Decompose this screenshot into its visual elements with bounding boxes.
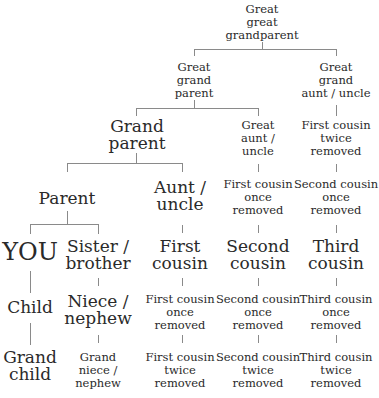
label-line: aunt / uncle — [301, 87, 370, 100]
connector — [194, 100, 195, 108]
node-great-great-grandparent: Great great grandparent — [225, 3, 298, 42]
node-first-cousin: First cousin — [152, 238, 208, 272]
connector — [136, 108, 137, 116]
node-child: Child — [7, 299, 53, 316]
node-grandparent: Grand parent — [109, 118, 166, 152]
label-line: Parent — [39, 190, 96, 207]
label-line: removed — [294, 204, 378, 217]
node-grandchild: Grand child — [3, 349, 57, 383]
connector — [336, 278, 337, 286]
node-first-cousin-once-removed: First cousin once removed — [145, 293, 214, 332]
label-line: parent — [109, 135, 166, 152]
node-you: YOU — [2, 240, 58, 264]
node-second-cousin: Second cousin — [226, 238, 289, 272]
label-line: Child — [7, 299, 53, 316]
connector — [258, 164, 259, 172]
connector — [98, 278, 99, 286]
connector — [258, 225, 259, 233]
connector — [336, 49, 337, 56]
label-line: nephew — [64, 310, 131, 327]
connector — [182, 225, 183, 233]
connector — [67, 211, 68, 224]
node-great-grandparent: Great grand parent — [175, 61, 214, 100]
connector — [98, 335, 99, 343]
node-third-cousin-twice-removed: Third cousin twice removed — [299, 351, 372, 390]
node-first-cousin-twice-removed-upper: First cousin twice removed — [301, 119, 370, 158]
label-line: removed — [145, 377, 214, 390]
node-first-cousin-twice-removed: First cousin twice removed — [145, 351, 214, 390]
node-niece-nephew: Niece / nephew — [64, 293, 131, 327]
connector — [194, 49, 195, 56]
connector — [67, 163, 68, 172]
label-line: removed — [216, 319, 300, 332]
connector — [336, 105, 337, 116]
connector — [30, 224, 99, 225]
connector — [136, 153, 137, 163]
connector — [182, 163, 183, 172]
label-line: removed — [145, 319, 214, 332]
connector — [262, 42, 263, 49]
connector — [258, 108, 259, 116]
label-line: brother — [65, 255, 130, 272]
connector — [67, 163, 183, 164]
label-line: parent — [175, 87, 214, 100]
connector — [194, 49, 337, 50]
node-third-cousin-once-removed: Third cousin once removed — [299, 293, 372, 332]
connector — [336, 335, 337, 343]
label-line: removed — [216, 377, 300, 390]
label-line: grandparent — [225, 29, 298, 42]
connector — [336, 164, 337, 172]
connector — [30, 271, 31, 293]
label-line: removed — [299, 319, 372, 332]
label-line: uncle — [241, 145, 275, 158]
connector — [182, 278, 183, 286]
node-third-cousin: Third cousin — [308, 238, 364, 272]
node-parent: Parent — [39, 190, 96, 207]
node-sister-brother: Sister / brother — [65, 238, 130, 272]
label-line: cousin — [152, 255, 208, 272]
label-line: cousin — [226, 255, 289, 272]
node-first-cousin-once-removed-upper: First cousin once removed — [223, 178, 292, 217]
connector — [258, 335, 259, 343]
connector — [258, 278, 259, 286]
node-second-cousin-once-removed-upper: Second cousin once removed — [294, 178, 378, 217]
node-grand-niece-nephew: Grand niece / nephew — [75, 351, 121, 390]
label-line: cousin — [308, 255, 364, 272]
label-line: uncle — [154, 196, 206, 213]
connector — [182, 335, 183, 343]
label-line: removed — [223, 204, 292, 217]
connector — [30, 224, 31, 234]
node-second-cousin-once-removed: Second cousin once removed — [216, 293, 300, 332]
label-line: nephew — [75, 377, 121, 390]
label-line: child — [3, 366, 57, 383]
node-second-cousin-twice-removed: Second cousin twice removed — [216, 351, 300, 390]
label-line: YOU — [2, 240, 58, 264]
label-line: removed — [301, 145, 370, 158]
node-great-aunt-uncle: Great aunt / uncle — [241, 119, 275, 158]
node-aunt-uncle: Aunt / uncle — [154, 179, 206, 213]
label-line: removed — [299, 377, 372, 390]
connector — [136, 108, 259, 109]
connector — [98, 224, 99, 234]
connector — [30, 323, 31, 345]
connector — [336, 225, 337, 233]
node-great-grand-aunt-uncle: Great grand aunt / uncle — [301, 61, 370, 100]
